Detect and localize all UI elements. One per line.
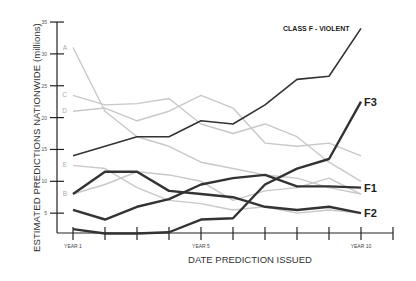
x-tick-label: YEAR 1 xyxy=(64,243,82,249)
x-tick-label: YEAR 10 xyxy=(351,243,372,249)
y-tick-label: 5 xyxy=(44,210,47,216)
series-line-c xyxy=(73,95,361,181)
y-tick-label: 35 xyxy=(41,19,47,25)
series-label: E xyxy=(63,161,68,168)
series-label: F3 xyxy=(364,96,377,108)
y-tick-label: 30 xyxy=(41,51,47,57)
y-tick-label: 25 xyxy=(41,83,47,89)
series-label: C xyxy=(62,91,67,98)
x-tick-label: YEAR 5 xyxy=(192,243,210,249)
y-tick-label: 15 xyxy=(41,146,47,152)
series-label: B xyxy=(63,190,67,197)
series-label: D xyxy=(62,107,67,114)
y-tick-label: 10 xyxy=(41,178,47,184)
x-axis-label: DATE PREDICTION ISSUED xyxy=(150,254,350,265)
series-label: A xyxy=(63,44,68,51)
series-line-class-f---violent xyxy=(73,28,361,155)
series-line-f3 xyxy=(73,102,361,234)
chart-title: CLASS F - VIOLENT xyxy=(283,25,350,32)
y-axis-label: ESTIMATED PREDICTIONS NATIONWIDE (millio… xyxy=(31,22,42,254)
y-tick-label: 20 xyxy=(41,115,47,121)
series-label: F1 xyxy=(364,182,377,194)
line-chart: 5101520253035YEAR 1YEAR 5YEAR 10ACDEBF3F… xyxy=(0,0,416,281)
series-label: F2 xyxy=(364,207,377,219)
